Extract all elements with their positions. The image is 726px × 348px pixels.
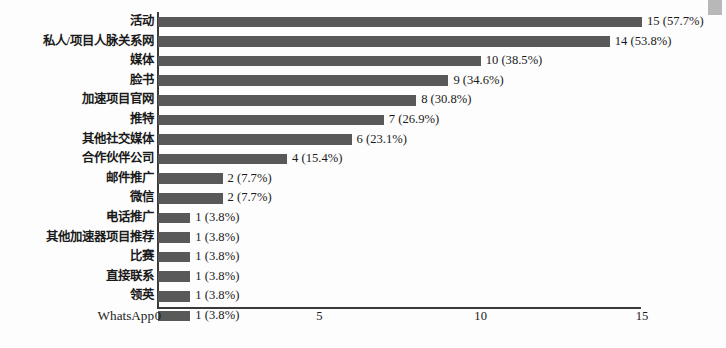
bar-fill (158, 154, 287, 165)
bar-value-label: 2 (7.7%) (223, 188, 272, 208)
bar-category-label: 邮件推广 (106, 169, 154, 189)
x-tick-label: 10 (474, 309, 487, 324)
bar-category-label: 电话推广 (106, 208, 154, 228)
bar-row: 邮件推广2 (7.7%) (0, 169, 726, 189)
bar-category-label: 其他社交媒体 (82, 130, 154, 150)
bar-category-label: 其他加速器项目推荐 (46, 228, 154, 248)
bar-track: 8 (30.8%) (158, 90, 642, 110)
bar-category-label: 比赛 (130, 247, 154, 267)
bar-category-label: 微信 (130, 188, 154, 208)
bar-track: 1 (3.8%) (158, 286, 642, 306)
bar-category-label: 媒体 (130, 51, 154, 71)
bar-row: 电话推广1 (3.8%) (0, 208, 726, 228)
bar-value-label: 2 (7.7%) (223, 169, 272, 189)
bar-value-label: 1 (3.8%) (190, 267, 239, 287)
bar-row: 推特7 (26.9%) (0, 110, 726, 130)
bar-track: 2 (7.7%) (158, 169, 642, 189)
bar-track: 7 (26.9%) (158, 110, 642, 130)
bar-row: 活动15 (57.7%) (0, 12, 726, 32)
bar-row: 其他加速器项目推荐1 (3.8%) (0, 228, 726, 248)
bar-fill (158, 75, 448, 86)
bar-track: 1 (3.8%) (158, 247, 642, 267)
x-tick-label: 0 (155, 309, 161, 324)
bar-value-label: 8 (30.8%) (416, 90, 471, 110)
bar-fill (158, 115, 384, 126)
bar-category-label: 直接联系 (106, 267, 154, 287)
bar-category-label: 加速项目官网 (82, 90, 154, 110)
bar-value-label: 1 (3.8%) (190, 208, 239, 228)
bar-fill (158, 232, 190, 243)
bar-rows: 活动15 (57.7%)私人/项目人脉关系网14 (53.8%)媒体10 (38… (0, 12, 726, 326)
bar-track: 14 (53.8%) (158, 32, 642, 52)
bar-row: 合作伙伴公司4 (15.4%) (0, 149, 726, 169)
bar-category-label: 脸书 (130, 71, 154, 91)
bar-row: 其他社交媒体6 (23.1%) (0, 130, 726, 150)
bar-row: 媒体10 (38.5%) (0, 51, 726, 71)
bar-category-label: 合作伙伴公司 (82, 149, 154, 169)
bar-value-label: 1 (3.8%) (190, 286, 239, 306)
bar-value-label: 6 (23.1%) (352, 130, 407, 150)
bar-category-label: 领英 (130, 286, 154, 306)
bar-fill (158, 252, 190, 263)
bar-fill (158, 173, 223, 184)
bar-row: 脸书9 (34.6%) (0, 71, 726, 91)
bar-track: 10 (38.5%) (158, 51, 642, 71)
bar-row: 私人/项目人脉关系网14 (53.8%) (0, 32, 726, 52)
bar-fill (158, 213, 190, 224)
bar-value-label: 15 (57.7%) (642, 12, 704, 32)
bar-track: 1 (3.8%) (158, 208, 642, 228)
bar-value-label: 14 (53.8%) (610, 32, 672, 52)
bar-value-label: 10 (38.5%) (481, 51, 543, 71)
bar-value-label: 7 (26.9%) (384, 110, 439, 130)
bar-category-label: 活动 (130, 12, 154, 32)
bar-row: 微信2 (7.7%) (0, 188, 726, 208)
bar-row: 加速项目官网8 (30.8%) (0, 90, 726, 110)
bar-category-label: 私人/项目人脉关系网 (43, 32, 154, 52)
x-tick-label: 15 (636, 309, 649, 324)
bar-track: 2 (7.7%) (158, 188, 642, 208)
bar-fill (158, 17, 642, 28)
bar-fill (158, 36, 610, 47)
bar-fill (158, 56, 481, 67)
bar-fill (158, 291, 190, 302)
bar-row: 直接联系1 (3.8%) (0, 267, 726, 287)
plot-area: 活动15 (57.7%)私人/项目人脉关系网14 (53.8%)媒体10 (38… (0, 0, 726, 348)
bar-track: 1 (3.8%) (158, 228, 642, 248)
bar-value-label: 1 (3.8%) (190, 228, 239, 248)
bar-track: 9 (34.6%) (158, 71, 642, 91)
bar-track: 1 (3.8%) (158, 267, 642, 287)
bar-row: 领英1 (3.8%) (0, 286, 726, 306)
bar-category-label: 推特 (130, 110, 154, 130)
x-tick-label: 5 (316, 309, 322, 324)
bar-track: 4 (15.4%) (158, 149, 642, 169)
x-axis-ticks: 051015 (0, 309, 726, 331)
bar-fill (158, 95, 416, 106)
bar-fill (158, 193, 223, 204)
bar-row: 比赛1 (3.8%) (0, 247, 726, 267)
bar-value-label: 4 (15.4%) (287, 149, 342, 169)
bar-value-label: 9 (34.6%) (448, 71, 503, 91)
bar-track: 15 (57.7%) (158, 12, 642, 32)
bar-value-label: 1 (3.8%) (190, 247, 239, 267)
bar-track: 6 (23.1%) (158, 130, 642, 150)
bar-fill (158, 271, 190, 282)
bar-fill (158, 134, 352, 145)
bar-chart: 活动15 (57.7%)私人/项目人脉关系网14 (53.8%)媒体10 (38… (0, 0, 726, 348)
